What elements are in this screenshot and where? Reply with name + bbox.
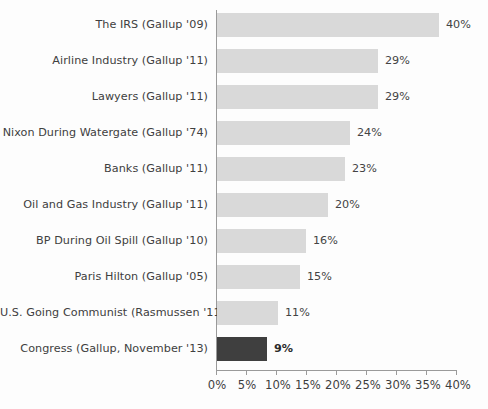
- x-axis-tick-label: 15%: [295, 378, 321, 392]
- x-axis-tick: [366, 370, 367, 375]
- category-label: Paris Hilton (Gallup '05): [0, 264, 208, 290]
- x-axis-tick: [246, 370, 247, 375]
- bar: [217, 229, 306, 253]
- x-axis-tick: [396, 370, 397, 375]
- value-label: 15%: [307, 264, 332, 290]
- category-label: Oil and Gas Industry (Gallup '11): [0, 192, 208, 218]
- category-label: Lawyers (Gallup '11): [0, 84, 208, 110]
- x-axis-tick-label: 5%: [238, 378, 256, 392]
- x-axis-tick-label: 40%: [445, 378, 471, 392]
- x-axis-tick: [306, 370, 307, 375]
- bar: [217, 265, 300, 289]
- table-row: The IRS (Gallup '09) 40%: [0, 12, 488, 48]
- value-label: 29%: [385, 48, 410, 74]
- x-axis-tick-label: 10%: [265, 378, 291, 392]
- x-axis-tick: [426, 370, 427, 375]
- category-label: U.S. Going Communist (Rasmussen '11): [0, 300, 208, 326]
- bar-highlighted: [217, 337, 267, 361]
- bar: [217, 157, 345, 181]
- x-axis-tick-label: 25%: [355, 378, 381, 392]
- table-row: BP During Oil Spill (Gallup '10) 16%: [0, 228, 488, 264]
- table-row: Oil and Gas Industry (Gallup '11) 20%: [0, 192, 488, 228]
- x-axis-tick: [216, 370, 217, 375]
- category-label: Banks (Gallup '11): [0, 156, 208, 182]
- table-row: Lawyers (Gallup '11) 29%: [0, 84, 488, 120]
- category-label: The IRS (Gallup '09): [0, 12, 208, 38]
- bar: [217, 193, 328, 217]
- x-axis-tick-label: 35%: [415, 378, 441, 392]
- value-label: 20%: [335, 192, 360, 218]
- bar: [217, 13, 439, 37]
- bar: [217, 49, 378, 73]
- x-axis-tick-label: 30%: [385, 378, 411, 392]
- bar-rows-container: The IRS (Gallup '09) 40% Airline Industr…: [0, 12, 488, 372]
- bar: [217, 121, 350, 145]
- table-row: Paris Hilton (Gallup '05) 15%: [0, 264, 488, 300]
- x-axis-tick-label: 0%: [208, 378, 226, 392]
- x-axis-tick: [456, 370, 457, 375]
- value-label: 11%: [285, 300, 310, 326]
- value-label: 40%: [446, 12, 471, 38]
- table-row: Nixon During Watergate (Gallup '74) 24%: [0, 120, 488, 156]
- x-axis-tick: [276, 370, 277, 375]
- category-label: Nixon During Watergate (Gallup '74): [0, 120, 208, 146]
- value-label: 24%: [357, 120, 382, 146]
- bar: [217, 85, 378, 109]
- category-label: Airline Industry (Gallup '11): [0, 48, 208, 74]
- bar: [217, 301, 278, 325]
- table-row: Airline Industry (Gallup '11) 29%: [0, 48, 488, 84]
- table-row: Banks (Gallup '11) 23%: [0, 156, 488, 192]
- category-label: BP During Oil Spill (Gallup '10): [0, 228, 208, 254]
- value-label: 9%: [274, 336, 293, 362]
- table-row: U.S. Going Communist (Rasmussen '11) 11%: [0, 300, 488, 336]
- table-row: Congress (Gallup, November '13) 9%: [0, 336, 488, 372]
- value-label: 23%: [352, 156, 377, 182]
- x-axis-tick-label: 20%: [325, 378, 351, 392]
- category-label: Congress (Gallup, November '13): [0, 336, 208, 362]
- value-label: 29%: [385, 84, 410, 110]
- horizontal-bar-chart: The IRS (Gallup '09) 40% Airline Industr…: [0, 0, 488, 409]
- value-label: 16%: [313, 228, 338, 254]
- x-axis-tick: [336, 370, 337, 375]
